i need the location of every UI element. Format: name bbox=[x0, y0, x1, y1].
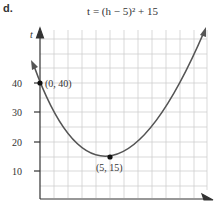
tick-40: 40 bbox=[12, 78, 22, 89]
vertex-point bbox=[107, 154, 112, 159]
tick-30: 30 bbox=[12, 107, 22, 118]
y-axis-label: t bbox=[30, 29, 33, 40]
x-axis-arrow-icon bbox=[202, 194, 213, 200]
tick-20: 20 bbox=[12, 137, 22, 148]
parabola-chart: t 40 30 20 10 (0, 40) (5, 15) bbox=[0, 0, 215, 201]
intercept-label: (0, 40) bbox=[45, 78, 72, 90]
parabola-curve bbox=[34, 32, 204, 156]
intercept-point bbox=[37, 80, 42, 85]
tick-10: 10 bbox=[12, 166, 22, 177]
curve-arrow-left-icon bbox=[31, 60, 38, 70]
curve-arrow-right-icon bbox=[200, 27, 206, 37]
vertex-label: (5, 15) bbox=[96, 162, 123, 174]
y-axis-arrow-icon bbox=[37, 28, 44, 38]
grid bbox=[40, 30, 207, 198]
